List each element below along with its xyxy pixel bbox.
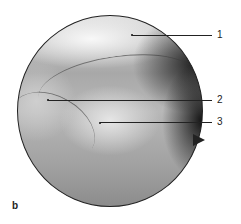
instrument-tip	[193, 134, 205, 146]
leader-line-1	[132, 35, 212, 36]
label-3: 3	[217, 116, 223, 127]
label-2: 2	[217, 94, 223, 105]
leader-line-3	[100, 122, 212, 123]
panel-letter: b	[12, 200, 18, 211]
label-1: 1	[217, 29, 223, 40]
arthroscopic-view	[17, 15, 203, 207]
leader-line-2	[48, 100, 212, 101]
